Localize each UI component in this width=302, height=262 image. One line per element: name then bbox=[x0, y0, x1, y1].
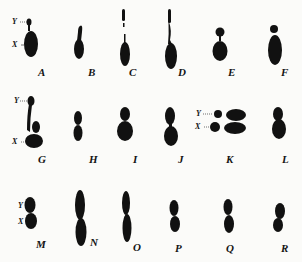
panel-label-d: D bbox=[178, 67, 186, 78]
panel-label-o: O bbox=[133, 242, 141, 253]
panel-label-l: L bbox=[282, 154, 289, 165]
panel-label-j: J bbox=[178, 154, 184, 165]
chromosome-f bbox=[268, 25, 282, 65]
chromosome-m bbox=[25, 197, 38, 229]
panel-label-c: C bbox=[129, 67, 136, 78]
panel-label-i: I bbox=[133, 154, 137, 165]
chromosome-figure: A B C D E F G H I J K L M N O P Q R Y X … bbox=[0, 0, 302, 262]
panel-label-q: Q bbox=[226, 243, 234, 254]
x-marker-m: X bbox=[18, 218, 23, 226]
panel-label-a: A bbox=[38, 67, 45, 78]
chromosome-drawings bbox=[0, 0, 302, 262]
panel-label-r: R bbox=[281, 243, 288, 254]
chromosome-j bbox=[164, 107, 178, 146]
chromosome-l bbox=[272, 107, 286, 139]
x-marker-k: X bbox=[195, 123, 200, 131]
chromosome-b bbox=[74, 26, 84, 59]
chromosome-a bbox=[20, 19, 38, 58]
panel-label-b: B bbox=[88, 67, 95, 78]
chromosome-p bbox=[170, 200, 181, 232]
panel-label-n: N bbox=[90, 237, 98, 248]
y-marker-k: Y bbox=[196, 110, 201, 118]
y-marker-a: Y bbox=[12, 18, 17, 26]
panel-label-g: G bbox=[38, 154, 46, 165]
chromosome-e bbox=[213, 28, 228, 62]
chromosome-q bbox=[224, 199, 235, 233]
chromosome-h bbox=[74, 111, 83, 141]
chromosome-i bbox=[117, 107, 133, 141]
chromosome-d bbox=[165, 9, 177, 69]
x-marker-a: X bbox=[12, 41, 17, 49]
y-marker-g: Y bbox=[14, 97, 19, 105]
chromosome-r bbox=[273, 203, 285, 232]
panel-label-m: M bbox=[36, 239, 46, 250]
panel-label-p: P bbox=[175, 243, 182, 254]
chromosome-c bbox=[120, 9, 130, 66]
panel-label-f: F bbox=[281, 67, 288, 78]
chromosome-n bbox=[75, 190, 87, 246]
chromosome-o bbox=[122, 191, 132, 242]
panel-label-k: K bbox=[226, 154, 233, 165]
panel-label-h: H bbox=[89, 154, 98, 165]
x-marker-g: X bbox=[12, 138, 17, 146]
panel-label-e: E bbox=[228, 67, 235, 78]
chromosome-k bbox=[203, 109, 246, 134]
chromosome-g bbox=[20, 96, 43, 148]
y-marker-m: Y bbox=[18, 202, 23, 210]
